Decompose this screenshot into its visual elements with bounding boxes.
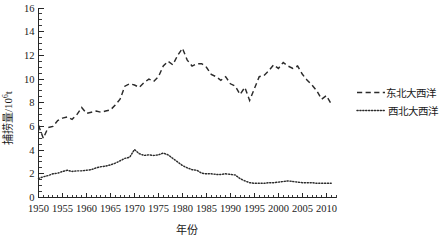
y-tick-label: 4 <box>29 145 35 156</box>
y-axis-tick-labels: 0246810121416 <box>24 3 35 204</box>
series-line-northeast-atlantic <box>39 48 332 138</box>
chart-figure: 0246810121416 19501955196019651970197519… <box>0 0 444 242</box>
y-axis-title: 捕捞量/106t <box>1 91 14 145</box>
x-tick-label: 1960 <box>76 203 97 214</box>
chart-canvas: 0246810121416 19501955196019651970197519… <box>0 0 444 242</box>
x-tick-label: 1955 <box>52 203 73 214</box>
x-tick-label: 1950 <box>28 203 49 214</box>
legend-label-northwest-atlantic: 西北大西洋 <box>388 105 439 117</box>
x-tick-label: 1970 <box>124 203 145 214</box>
x-tick-label: 1975 <box>148 203 169 214</box>
y-tick-label: 8 <box>29 97 34 108</box>
x-axis-tick-labels: 1950195519601965197019751980198519901995… <box>28 203 337 214</box>
x-tick-label: 1980 <box>172 203 193 214</box>
y-tick-label: 12 <box>24 50 35 61</box>
y-tick-label: 10 <box>24 74 35 85</box>
y-tick-label: 2 <box>29 168 34 179</box>
plot-area: 0246810121416 19501955196019651970197519… <box>24 3 337 214</box>
x-tick-label: 2010 <box>316 203 337 214</box>
x-tick-label: 2005 <box>292 203 313 214</box>
x-tick-label: 1990 <box>220 203 241 214</box>
legend-label-northeast-atlantic: 东北大西洋 <box>386 87 437 99</box>
axis-ticks <box>39 8 337 198</box>
x-axis-title: 年份 <box>176 223 198 236</box>
x-tick-label: 1995 <box>244 203 265 214</box>
chart-legend: 东北大西洋 西北大西洋 <box>357 87 439 117</box>
y-tick-label: 0 <box>29 192 34 203</box>
series-line-northwest-atlantic <box>39 150 332 184</box>
y-tick-label: 16 <box>24 3 35 14</box>
x-tick-label: 2000 <box>268 203 289 214</box>
y-tick-label: 6 <box>29 121 34 132</box>
y-tick-label: 14 <box>24 26 35 37</box>
x-tick-label: 1965 <box>100 203 121 214</box>
x-tick-label: 1985 <box>196 203 217 214</box>
